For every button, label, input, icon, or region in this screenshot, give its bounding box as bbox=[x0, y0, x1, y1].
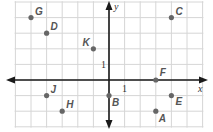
y-axis-down-arrow-icon bbox=[106, 120, 113, 129]
point-label: K bbox=[82, 37, 90, 48]
point-marker bbox=[91, 46, 96, 51]
axes: x y 1 1 bbox=[6, 1, 208, 129]
point-label: A bbox=[158, 113, 166, 124]
point-label: C bbox=[175, 6, 183, 17]
point-label: F bbox=[160, 67, 167, 78]
y-tick-label: 1 bbox=[101, 59, 106, 70]
point-marker bbox=[28, 15, 33, 20]
point-label: H bbox=[66, 99, 74, 110]
x-axis-left-arrow-icon bbox=[6, 77, 15, 84]
point-label: B bbox=[112, 97, 119, 108]
point-marker bbox=[44, 31, 49, 36]
point-marker bbox=[169, 15, 174, 20]
point-marker bbox=[106, 93, 111, 98]
point-label: J bbox=[51, 84, 57, 95]
point-marker bbox=[60, 109, 65, 114]
x-axis-label: x bbox=[197, 83, 203, 94]
point-e: E bbox=[169, 93, 183, 107]
point-marker bbox=[153, 109, 158, 114]
point-label: D bbox=[51, 21, 58, 32]
point-marker bbox=[153, 77, 158, 82]
coordinate-plane: x y 1 1 ABCDEFGHJK bbox=[0, 0, 213, 132]
x-tick-label: 1 bbox=[122, 83, 127, 94]
point-label: E bbox=[175, 96, 182, 107]
point-marker bbox=[169, 93, 174, 98]
point-marker bbox=[44, 93, 49, 98]
y-axis-label: y bbox=[113, 1, 119, 12]
point-label: G bbox=[35, 6, 43, 17]
